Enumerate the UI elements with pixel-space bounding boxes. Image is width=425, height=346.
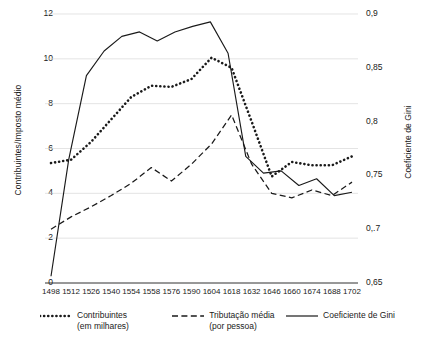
series-line-1 [51,115,352,229]
plot-area [45,14,358,283]
y-axis-left-title: Contribuintes/Imposto médio [13,65,23,215]
chart-figure: Contribuintes/Imposto médio Coeficiente … [0,0,425,346]
legend-item: Coeficiente de Gini [286,310,400,321]
chart-legend: Contribuintes (em milhares)Tributação mé… [40,310,400,332]
y-right-tick-label: 0,.7 [366,223,396,233]
legend-label: Tributação média (por pessoa) [209,310,274,332]
x-tick-label: 1702 [339,287,365,296]
gridlines [45,14,358,283]
y-right-tick-label: 0,75 [366,169,396,179]
y-right-tick-label: 0,9 [366,8,396,18]
plot-svg [45,14,358,283]
series-line-0 [51,58,352,177]
y-right-tick-label: 0,85 [366,62,396,72]
legend-label: Contribuintes (em milhares) [77,310,129,332]
y-right-tick-label: 0,8 [366,116,396,126]
y-axis-right-title: Coeficiente de Gini [403,67,413,217]
legend-swatch-solid-icon [286,310,318,321]
legend-swatch-dashed-icon [172,310,204,321]
legend-label: Coeficiente de Gini [323,310,395,321]
legend-item: Tributação média (por pessoa) [172,310,286,332]
y-right-tick-label: 0,65 [366,277,396,287]
legend-item: Contribuintes (em milhares) [40,310,172,332]
legend-swatch-dotted-icon [40,310,72,321]
